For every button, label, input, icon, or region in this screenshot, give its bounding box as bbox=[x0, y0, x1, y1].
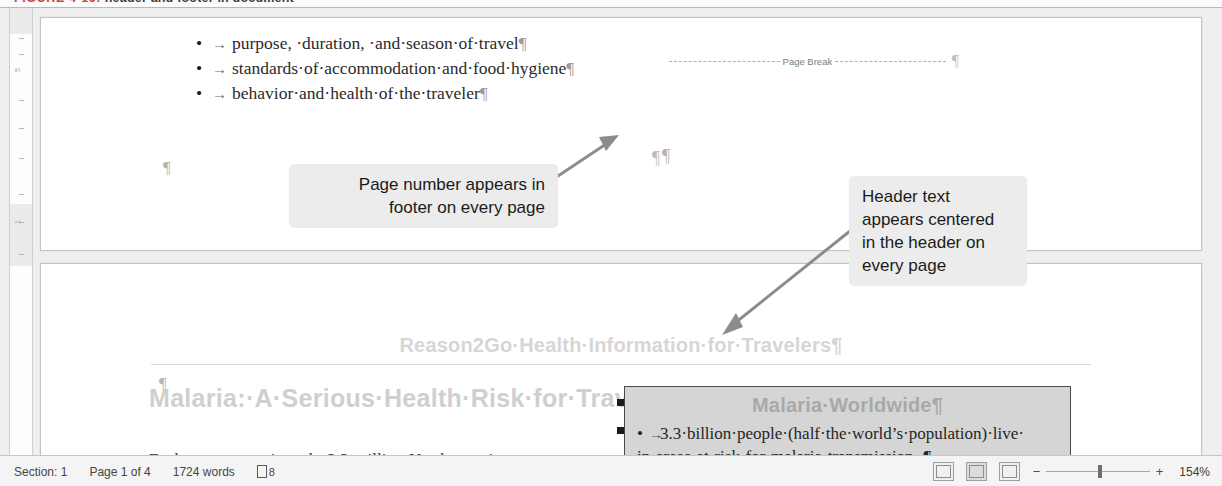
ruler-tick bbox=[19, 54, 24, 55]
list-item: •→purpose, ·duration, ·and·season·of·tra… bbox=[196, 31, 574, 56]
callout-line: appears centered bbox=[862, 208, 1014, 231]
sidebar-text-box[interactable]: Malaria·Worldwide¶ •→3.3·billion·people·… bbox=[624, 386, 1071, 456]
ruler-tick bbox=[19, 158, 24, 159]
bullet-marker-icon: • bbox=[637, 423, 649, 445]
view-button-print-layout[interactable] bbox=[966, 462, 987, 481]
bullet-marker-icon: • bbox=[196, 31, 212, 55]
tab-arrow-icon: → bbox=[212, 32, 232, 56]
ruler-tick bbox=[19, 254, 24, 255]
web-layout-icon bbox=[1002, 465, 1017, 478]
bullet-marker-icon: • bbox=[196, 81, 212, 105]
figure-caption: FIGURE 4-16: header and footer in docume… bbox=[14, 0, 294, 5]
pilcrow-icon: ¶ bbox=[480, 83, 488, 103]
tab-arrow-icon: → bbox=[212, 57, 232, 81]
callout-line: footer on every page bbox=[302, 196, 545, 219]
ruler-margin-shade-top bbox=[10, 8, 32, 34]
list-item: •→standards·of·accommodation·and·food·hy… bbox=[196, 56, 574, 81]
bulleted-list: •→purpose, ·duration, ·and·season·of·tra… bbox=[196, 31, 574, 106]
sidebar-title: Malaria·Worldwide¶ bbox=[625, 394, 1070, 417]
zoom-thumb[interactable] bbox=[1098, 465, 1102, 478]
zoom-track[interactable] bbox=[1046, 467, 1150, 477]
list-item-text: behavior·and·health·of·the·traveler bbox=[232, 83, 480, 103]
annotation-callout-footer: Page number appears in footer on every p… bbox=[289, 164, 558, 228]
list-item-text: standards·of·accommodation·and·food·hygi… bbox=[232, 58, 566, 78]
status-bar-right: − + 154% bbox=[933, 462, 1222, 481]
status-bar-left: Section: 1 Page 1 of 4 1724 words 8 bbox=[0, 465, 275, 479]
document-page-2[interactable]: Reason2Go·Health·Information·for·Travele… bbox=[40, 263, 1202, 456]
zoom-level-value[interactable]: 154% bbox=[1176, 465, 1210, 479]
ruler-tick bbox=[19, 100, 24, 101]
pilcrow-icon: ¶ bbox=[519, 33, 527, 53]
header-separator-rule bbox=[151, 364, 1091, 365]
pilcrow-icon: ¶ bbox=[952, 52, 959, 70]
ruler-mark: 1 bbox=[14, 220, 21, 224]
document-page-1[interactable]: •→purpose, ·duration, ·and·season·of·tra… bbox=[40, 17, 1202, 251]
view-button-read-mode[interactable] bbox=[933, 462, 954, 481]
status-page-number[interactable]: Page 1 of 4 bbox=[89, 465, 150, 479]
read-mode-icon bbox=[936, 465, 951, 478]
figure-caption-text: header and footer in document bbox=[105, 0, 294, 5]
zoom-in-button[interactable]: + bbox=[1155, 464, 1164, 479]
page-break-line-left bbox=[669, 61, 780, 62]
document-header-text: Reason2Go·Health·Information·for·Travele… bbox=[41, 334, 1201, 357]
sidebar-body: •→3.3·billion·people·(half·the·world’s·p… bbox=[637, 423, 1060, 456]
callout-line: in the header on bbox=[862, 231, 1014, 254]
callout-line: Header text bbox=[862, 185, 1014, 208]
sidebar-bullet-line-1: 3.3·billion·people·(half·the·world’s·pop… bbox=[660, 424, 1024, 443]
bookmark-glyph-icon bbox=[257, 465, 267, 478]
tab-arrow-icon: → bbox=[649, 424, 660, 446]
status-word-count[interactable]: 1724 words bbox=[173, 465, 235, 479]
pilcrow-icon: ¶ bbox=[566, 58, 574, 78]
object-anchor-icon bbox=[617, 399, 624, 406]
page-break-label: Page Break bbox=[780, 56, 836, 67]
language-count: 8 bbox=[269, 466, 275, 478]
pilcrow-icon: ¶ bbox=[163, 158, 171, 178]
view-button-web-layout[interactable] bbox=[999, 462, 1020, 481]
list-item-text: purpose, ·duration, ·and·season·of·trave… bbox=[232, 33, 519, 53]
footer-page-number-pilcrow-icon: ¶ bbox=[652, 148, 660, 169]
status-bar: Section: 1 Page 1 of 4 1724 words 8 − + … bbox=[0, 455, 1222, 486]
vertical-ruler[interactable]: 5 1 bbox=[9, 8, 33, 456]
word-document-screenshot: FIGURE 4-16: header and footer in docume… bbox=[0, 0, 1222, 486]
tab-arrow-icon: → bbox=[212, 82, 232, 106]
zoom-out-button[interactable]: − bbox=[1032, 464, 1041, 479]
ruler-tick bbox=[19, 128, 24, 129]
page-break-line-right bbox=[835, 61, 946, 62]
figure-label: FIGURE 4-16: bbox=[14, 0, 101, 5]
document-window: 5 1 •→purpose, ·duration, ·and·season·of… bbox=[0, 7, 1222, 456]
status-section[interactable]: Section: 1 bbox=[14, 465, 67, 479]
annotation-callout-header: Header text appears centered in the head… bbox=[849, 176, 1027, 286]
ruler-margin-shade-mid bbox=[10, 204, 32, 266]
object-anchor-icon bbox=[617, 427, 624, 434]
list-item: •→behavior·and·health·of·the·traveler¶ bbox=[196, 81, 574, 106]
zoom-slider[interactable]: − + bbox=[1032, 464, 1164, 479]
ruler-tick bbox=[19, 194, 24, 195]
page-break-marker: Page Break ¶ bbox=[669, 54, 959, 68]
language-proofing-icon[interactable]: 8 bbox=[257, 465, 275, 478]
print-layout-icon bbox=[969, 465, 984, 478]
ruler-tick bbox=[19, 38, 24, 39]
callout-line: Page number appears in bbox=[302, 173, 545, 196]
bullet-marker-icon: • bbox=[196, 56, 212, 80]
pilcrow-icon: ¶ bbox=[662, 146, 670, 167]
document-title: Malaria:·A·Serious·Health·Risk·for·Trave… bbox=[149, 382, 619, 414]
ruler-mark: 5 bbox=[14, 68, 21, 72]
callout-line: every page bbox=[862, 254, 1014, 277]
